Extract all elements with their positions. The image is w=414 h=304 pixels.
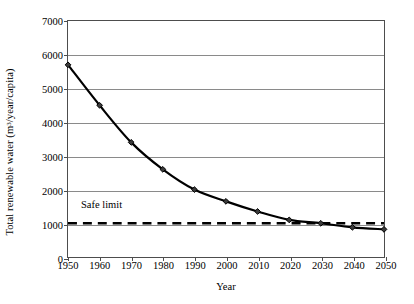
y-axis-tick-label: 7000 (42, 16, 68, 27)
x-axis-tick-label: 1950 (58, 257, 79, 271)
y-axis-title-prefix: Total renewable water (m (4, 126, 15, 236)
y-axis-tick-label: 1000 (42, 220, 68, 231)
y-axis-tick-label: 4000 (42, 118, 68, 129)
x-axis-tick-label: 2040 (344, 257, 365, 271)
y-axis-tick-label: 5000 (42, 84, 68, 95)
y-axis-tick-label: 2000 (42, 186, 68, 197)
y-axis-title: Total renewable water (m3/year/capita) (0, 0, 18, 304)
x-axis-tick-label: 1990 (185, 257, 206, 271)
x-axis-title: Year (67, 281, 385, 292)
data-point-marker (350, 224, 356, 230)
x-axis-tick-label: 2000 (217, 257, 238, 271)
data-point-marker (255, 209, 261, 215)
data-point-marker (318, 220, 324, 226)
data-point-marker (381, 226, 387, 232)
series-layer (68, 21, 384, 257)
x-axis-tick-label: 2010 (248, 257, 269, 271)
chart-container: Total renewable water (m3/year/capita) 0… (0, 0, 414, 304)
x-axis-tick-label: 1980 (153, 257, 174, 271)
plot-area: 0100020003000400050006000700019501960197… (67, 20, 385, 258)
x-axis-tick-label: 2030 (312, 257, 333, 271)
y-axis-tick-label: 6000 (42, 50, 68, 61)
x-axis-tick-label: 2020 (280, 257, 301, 271)
y-axis-title-suffix: /year/capita) (4, 68, 15, 122)
data-point-marker (223, 198, 229, 204)
y-axis-tick-label: 3000 (42, 152, 68, 163)
x-axis-tick-label: 1960 (89, 257, 110, 271)
data-point-marker (286, 217, 292, 223)
x-axis-tick-label: 1970 (121, 257, 142, 271)
x-axis-tick-label: 2050 (376, 257, 397, 271)
